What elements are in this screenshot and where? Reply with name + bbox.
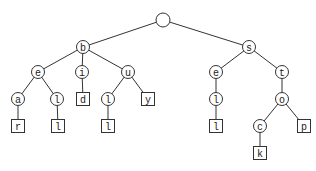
node-sel: l <box>210 93 223 106</box>
node-bul: l <box>102 93 115 106</box>
node-label: a <box>15 95 21 106</box>
leaf-node-stop: p <box>298 120 311 133</box>
node-bel: l <box>51 93 64 106</box>
node-label: i <box>79 68 85 79</box>
edge-b-bu <box>83 47 128 72</box>
node-label: k <box>257 149 263 160</box>
node-label: y <box>145 95 151 106</box>
edge-root-s <box>163 20 249 47</box>
leaf-node-stock: k <box>254 147 267 160</box>
node-label: u <box>125 68 131 79</box>
leaf-node-bear: r <box>12 120 25 133</box>
trie-nodes: bseiuetaldlylorlllcpk <box>12 13 311 160</box>
node-sto: o <box>276 93 289 106</box>
node-root <box>156 13 170 27</box>
node-label: l <box>213 95 219 106</box>
node-bea: a <box>12 93 25 106</box>
node-label: r <box>15 122 21 133</box>
node-label: o <box>279 95 285 106</box>
leaf-node-sell: l <box>210 120 223 133</box>
leaf-node-bull: l <box>102 120 115 133</box>
node-be: e <box>32 66 45 79</box>
node-label: l <box>105 95 111 106</box>
trie-edges <box>18 20 304 153</box>
node-stoc: c <box>254 120 267 133</box>
node-b: b <box>77 41 90 54</box>
trie-diagram: bseiuetaldlylorlllcpk <box>0 0 316 171</box>
leaf-node-buy: y <box>142 93 155 106</box>
node-label: l <box>105 122 111 133</box>
node-label: s <box>246 43 252 54</box>
node-label: e <box>213 68 219 79</box>
node-st: t <box>276 66 289 79</box>
node-se: e <box>210 66 223 79</box>
node-label: l <box>213 122 219 133</box>
node-label: t <box>279 68 285 79</box>
node-label: c <box>257 122 263 133</box>
node-label: p <box>301 122 307 133</box>
leaf-node-bell: l <box>52 120 65 133</box>
leaf-node-bid: d <box>77 93 90 106</box>
node-label: e <box>35 68 41 79</box>
node-label: l <box>55 122 61 133</box>
node-s: s <box>243 41 256 54</box>
node-bu: u <box>122 66 135 79</box>
node-bi: i <box>76 66 89 79</box>
node-label: b <box>80 43 86 54</box>
node-label: l <box>54 95 60 106</box>
node-label: d <box>80 95 86 106</box>
edge-root-b <box>83 20 163 47</box>
